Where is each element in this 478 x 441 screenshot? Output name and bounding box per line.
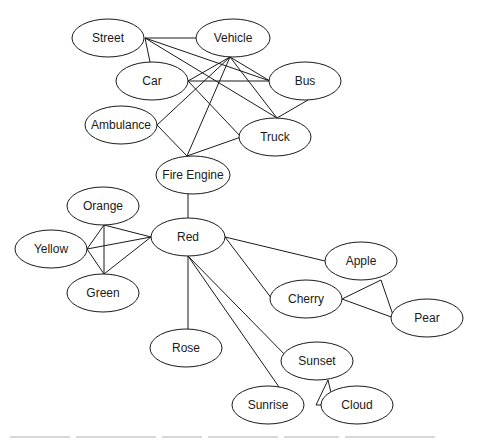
node-vehicle: Vehicle <box>196 19 270 57</box>
edge-green-red <box>104 237 151 274</box>
node-label: Cloud <box>341 398 372 412</box>
node-orange: Orange <box>67 187 139 225</box>
node-car: Car <box>116 62 188 100</box>
node-label: Pear <box>414 311 439 325</box>
semantic-network-diagram: StreetVehicleCarBusAmbulanceTruckFire En… <box>0 0 478 441</box>
node-truck: Truck <box>239 118 311 156</box>
node-red: Red <box>151 218 225 256</box>
node-label: Green <box>86 286 119 300</box>
node-yellow: Yellow <box>15 230 87 268</box>
node-rose: Rose <box>150 329 222 367</box>
node-green: Green <box>67 274 139 312</box>
node-label: Street <box>92 31 125 45</box>
node-label: Sunrise <box>248 398 289 412</box>
node-label: Vehicle <box>214 31 253 45</box>
node-sunset: Sunset <box>281 342 353 380</box>
edge-yellow-red <box>87 237 151 249</box>
node-label: Cherry <box>288 292 324 306</box>
node-bus: Bus <box>269 62 341 100</box>
node-label: Car <box>142 74 161 88</box>
node-label: Yellow <box>34 242 69 256</box>
edge-orange-red <box>104 225 151 237</box>
node-pear: Pear <box>391 299 463 337</box>
edge-cherry-apple <box>342 280 381 299</box>
edge-bus-truck <box>277 100 308 118</box>
edge-vehicle-fire-engine <box>187 57 230 156</box>
node-label: Fire Engine <box>162 168 224 182</box>
edge-vehicle-truck <box>230 57 277 118</box>
figure-caption-truncated <box>10 436 470 441</box>
node-label: Sunset <box>298 354 336 368</box>
node-ambulance: Ambulance <box>85 106 157 144</box>
node-label: Red <box>177 230 199 244</box>
edge-red-sunrise <box>188 256 279 387</box>
node-cherry: Cherry <box>270 280 342 318</box>
edge-truck-fire-engine <box>187 137 241 156</box>
edge-yellow-green <box>87 249 104 274</box>
node-label: Apple <box>346 254 377 268</box>
node-label: Bus <box>295 74 316 88</box>
node-label: Orange <box>83 199 123 213</box>
edge-cherry-pear <box>342 299 394 318</box>
node-fire-engine: Fire Engine <box>156 156 230 194</box>
node-label: Rose <box>172 341 200 355</box>
diagram-canvas: StreetVehicleCarBusAmbulanceTruckFire En… <box>0 0 478 441</box>
node-cloud: Cloud <box>321 386 393 424</box>
nodes-layer: StreetVehicleCarBusAmbulanceTruckFire En… <box>15 19 463 424</box>
edge-street-car <box>145 38 150 62</box>
edge-ambulance-fire-engine <box>157 125 187 156</box>
edge-orange-yellow <box>87 225 104 249</box>
node-sunrise: Sunrise <box>232 386 304 424</box>
node-street: Street <box>72 19 144 57</box>
node-label: Ambulance <box>91 118 151 132</box>
node-label: Truck <box>260 130 291 144</box>
edge-vehicle-car <box>188 57 230 81</box>
node-apple: Apple <box>325 242 397 280</box>
edge-car-truck <box>188 81 241 137</box>
